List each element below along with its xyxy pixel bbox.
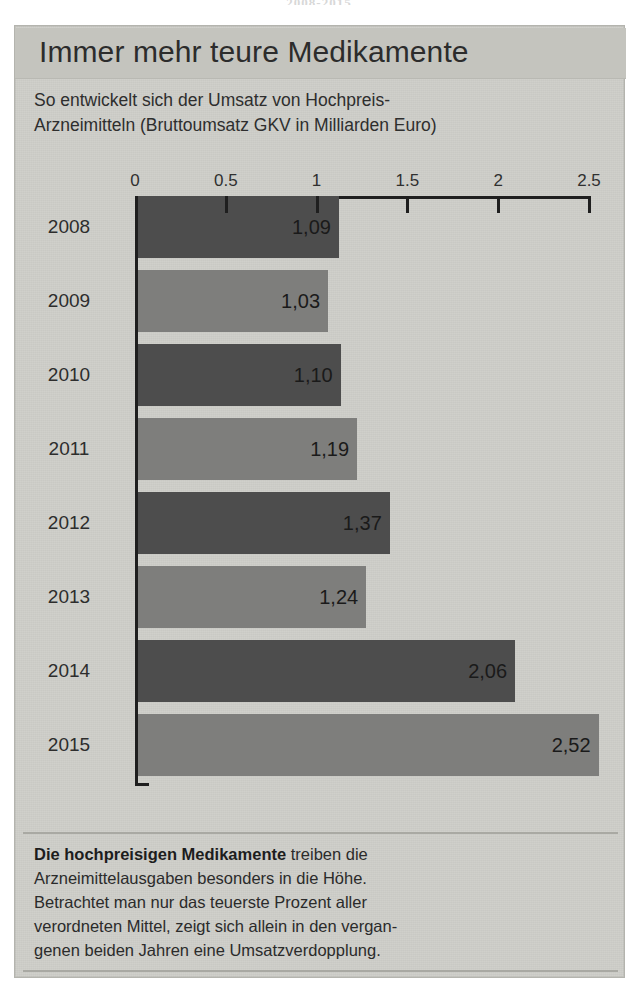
x-axis-tick-0.5 xyxy=(225,196,228,213)
bar-row[interactable]: 20111,19 xyxy=(15,418,626,480)
bar-row[interactable]: 20121,37 xyxy=(15,492,626,554)
bar-category-label: 2011 xyxy=(15,418,123,480)
footnote-lead: Die hochpreisigen Medikamente xyxy=(34,845,286,863)
bar-category-label: 2008 xyxy=(15,196,123,258)
footnote-line-1: Die hochpreisigen Medikamente treiben di… xyxy=(34,842,614,866)
x-axis-tick-2.5 xyxy=(588,196,591,213)
bar-value-label: 2,06 xyxy=(468,640,507,702)
bar-2008[interactable]: 1,09 xyxy=(138,196,339,258)
bar-value-label: 2,52 xyxy=(552,714,591,776)
page-title: Immer mehr teure Medikamente xyxy=(39,35,469,69)
x-axis-tick-label-2: 2 xyxy=(493,171,502,191)
x-axis-tick-label-0: 0 xyxy=(130,171,139,191)
bar-value-label: 1,09 xyxy=(292,196,331,258)
subtitle-line-1: So entwickelt sich der Umsatz von Hochpr… xyxy=(34,88,614,113)
bar-value-label: 1,03 xyxy=(281,270,320,332)
x-axis-tick-label-1.5: 1.5 xyxy=(396,171,420,191)
x-axis-tick-label-2.5: 2.5 xyxy=(577,171,601,191)
subtitle-line-2: Arzneimitteln (Bruttoumsatz GKV in Milli… xyxy=(34,113,614,138)
bar-value-label: 1,24 xyxy=(319,566,358,628)
x-axis-tick-labels: 00.511.522.5 xyxy=(15,171,626,193)
footnote-text: Die hochpreisigen Medikamente treiben di… xyxy=(34,842,614,962)
bar-2012[interactable]: 1,37 xyxy=(138,492,390,554)
clipped-top-caption: 2008-2015 xyxy=(0,0,638,5)
bar-row[interactable]: 20131,24 xyxy=(15,566,626,628)
x-axis-tick-label-1: 1 xyxy=(312,171,321,191)
bar-category-label: 2012 xyxy=(15,492,123,554)
footnote-line-2: Arzneimittelausgaben besonders in die Hö… xyxy=(34,866,614,890)
bar-row[interactable]: 20081,09 xyxy=(15,196,626,258)
footnote-line-3: Betrachtet man nur das teuerste Prozent … xyxy=(34,890,614,914)
bar-row[interactable]: 20091,03 xyxy=(15,270,626,332)
bar-series: 20081,0920091,0320101,1020111,1920121,37… xyxy=(15,196,626,788)
x-axis-tick-1.5 xyxy=(406,196,409,213)
bar-chart: 00.511.522.5 20081,0920091,0320101,10201… xyxy=(15,171,626,821)
x-axis-tick-label-0.5: 0.5 xyxy=(214,171,238,191)
footnote-line-4: verordneten Mittel, zeigt sich allein in… xyxy=(34,914,614,938)
bar-2011[interactable]: 1,19 xyxy=(138,418,357,480)
bar-category-label: 2010 xyxy=(15,344,123,406)
bar-2010[interactable]: 1,10 xyxy=(138,344,341,406)
bar-category-label: 2014 xyxy=(15,640,123,702)
x-axis-tick-2 xyxy=(497,196,500,213)
bar-2013[interactable]: 1,24 xyxy=(138,566,366,628)
chart-subtitle: So entwickelt sich der Umsatz von Hochpr… xyxy=(34,88,614,138)
bar-2014[interactable]: 2,06 xyxy=(138,640,515,702)
footnote-line-1-rest: treiben die xyxy=(286,845,368,863)
bar-category-label: 2013 xyxy=(15,566,123,628)
footer-bottom-divider xyxy=(23,970,618,972)
bar-category-label: 2015 xyxy=(15,714,123,776)
bar-2015[interactable]: 2,52 xyxy=(138,714,599,776)
bar-row[interactable]: 20152,52 xyxy=(15,714,626,776)
footer-divider xyxy=(23,832,618,834)
bar-value-label: 1,10 xyxy=(294,344,333,406)
bar-value-label: 1,19 xyxy=(310,418,349,480)
bar-value-label: 1,37 xyxy=(343,492,382,554)
bar-category-label: 2009 xyxy=(15,270,123,332)
footnote-line-5: genen beiden Jahren eine Umsatzverdopplu… xyxy=(34,938,614,962)
bar-row[interactable]: 20142,06 xyxy=(15,640,626,702)
x-axis-tick-1 xyxy=(316,196,319,213)
bar-row[interactable]: 20101,10 xyxy=(15,344,626,406)
title-band: Immer mehr teure Medikamente xyxy=(15,28,626,79)
infographic-panel: Immer mehr teure Medikamente So entwicke… xyxy=(14,25,625,978)
bar-2009[interactable]: 1,03 xyxy=(138,270,328,332)
